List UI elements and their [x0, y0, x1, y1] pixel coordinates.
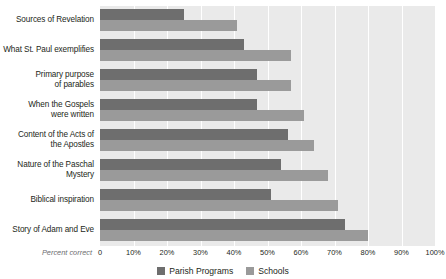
- bar-group: [100, 66, 435, 96]
- x-tick-label: 60%: [294, 248, 309, 257]
- bar-parish-programs: [100, 159, 281, 170]
- legend-swatch-icon: [246, 267, 254, 275]
- bar-parish-programs: [100, 219, 345, 230]
- bar-group: [100, 216, 435, 246]
- bar-parish-programs: [100, 189, 271, 200]
- category-label: When the Gospelswere written: [0, 100, 94, 120]
- category-label-line: Story of Adam and Eve: [0, 225, 94, 235]
- category-label-line: Mystery: [0, 170, 94, 180]
- x-tick-label: 10%: [126, 248, 141, 257]
- bar-schools: [100, 110, 304, 121]
- x-tick-label: 100%: [426, 248, 445, 257]
- bar-schools: [100, 20, 237, 31]
- category-label: Story of Adam and Eve: [0, 225, 94, 235]
- bar-group: [100, 36, 435, 66]
- category-label-line: Nature of the Paschal: [0, 160, 94, 170]
- category-label-line: of parables: [0, 80, 94, 90]
- category-axis-labels: Sources of RevelationWhat St. Paul exemp…: [0, 6, 94, 246]
- bar-parish-programs: [100, 69, 257, 80]
- legend-item-parish-programs[interactable]: Parish Programs: [157, 266, 233, 276]
- legend-label: Schools: [258, 266, 289, 276]
- category-label: Content of the Acts ofthe Apostles: [0, 130, 94, 150]
- category-label: Nature of the PaschalMystery: [0, 160, 94, 180]
- category-label-line: Content of the Acts of: [0, 130, 94, 140]
- category-label: Biblical inspiration: [0, 195, 94, 205]
- x-tick-label: 80%: [361, 248, 376, 257]
- legend-swatch-icon: [157, 267, 165, 275]
- bar-schools: [100, 140, 314, 151]
- x-tick-label: 50%: [260, 248, 275, 257]
- category-label-line: were written: [0, 110, 94, 120]
- gridline: [435, 6, 436, 246]
- category-label-line: What St. Paul exemplifies: [0, 45, 94, 55]
- category-label-line: When the Gospels: [0, 100, 94, 110]
- bar-group: [100, 156, 435, 186]
- x-axis: Percent correct 010%20%30%40%50%60%70%80…: [0, 248, 446, 262]
- legend-item-schools[interactable]: Schools: [246, 266, 289, 276]
- bar-group: [100, 6, 435, 36]
- category-label-line: Primary purpose: [0, 70, 94, 80]
- x-tick-label: 20%: [160, 248, 175, 257]
- category-label-line: Biblical inspiration: [0, 195, 94, 205]
- bar-schools: [100, 50, 291, 61]
- x-tick-label: 30%: [193, 248, 208, 257]
- bar-parish-programs: [100, 99, 257, 110]
- bar-schools: [100, 170, 328, 181]
- x-tick-label: 70%: [327, 248, 342, 257]
- x-tick-label: 40%: [227, 248, 242, 257]
- plot-area: [100, 6, 435, 246]
- bar-group: [100, 186, 435, 216]
- bar-group: [100, 96, 435, 126]
- bar-parish-programs: [100, 129, 288, 140]
- bar-schools: [100, 80, 291, 91]
- bar-group: [100, 126, 435, 156]
- bar-schools: [100, 200, 338, 211]
- category-label-line: the Apostles: [0, 140, 94, 150]
- category-label: Sources of Revelation: [0, 15, 94, 25]
- x-axis-title: Percent correct: [0, 248, 92, 257]
- legend-label: Parish Programs: [169, 266, 233, 276]
- category-label-line: Sources of Revelation: [0, 15, 94, 25]
- x-tick-label: 90%: [394, 248, 409, 257]
- bar-parish-programs: [100, 39, 244, 50]
- legend: Parish ProgramsSchools: [0, 264, 446, 277]
- bar-parish-programs: [100, 9, 184, 20]
- bar-schools: [100, 230, 368, 241]
- bar-rows: [100, 6, 435, 246]
- bar-chart: Sources of RevelationWhat St. Paul exemp…: [0, 0, 446, 279]
- category-label: What St. Paul exemplifies: [0, 45, 94, 55]
- category-label: Primary purposeof parables: [0, 70, 94, 90]
- x-tick-label: 0: [98, 248, 102, 257]
